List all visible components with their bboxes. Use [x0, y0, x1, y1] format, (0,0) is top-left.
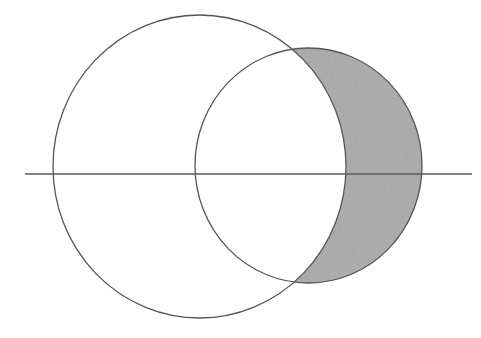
shaded-crescent-region [195, 48, 422, 283]
venn-diagram [0, 0, 481, 338]
